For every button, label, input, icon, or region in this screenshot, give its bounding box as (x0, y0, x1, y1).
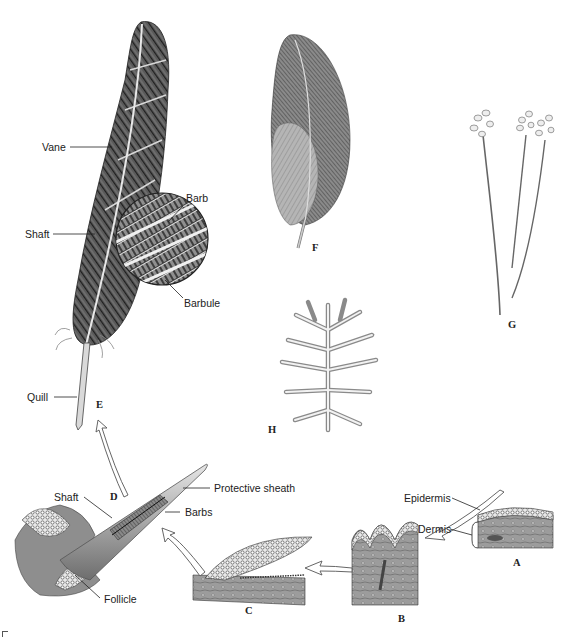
stage-b-papilla (352, 522, 418, 605)
stage-label-c: C (245, 606, 253, 617)
down-feather-h-highlight (282, 305, 376, 430)
stage-label-d: D (110, 492, 118, 503)
label-barb: Barb (186, 193, 208, 204)
arrow-b-to-c (305, 561, 352, 575)
stage-label-g: G (508, 320, 516, 331)
label-epidermis: Epidermis (404, 493, 451, 504)
stage-c-bud (193, 537, 312, 605)
stage-d-follicle (15, 464, 208, 596)
stage-label-f: F (312, 243, 318, 254)
filoplumes-g (470, 110, 554, 315)
label-shaft-feather: Shaft (25, 229, 50, 240)
label-dermis: Dermis (418, 524, 451, 535)
stage-label-e: E (96, 400, 103, 411)
label-barbs: Barbs (185, 507, 212, 518)
corner-crop-mark (2, 631, 8, 637)
feather-f (271, 35, 350, 248)
label-quill: Quill (27, 392, 48, 403)
stage-label-a: A (513, 558, 521, 569)
arrow-d-to-e (96, 420, 128, 497)
feather-diagram (0, 0, 573, 637)
label-barbule: Barbule (184, 298, 220, 309)
arrow-c-to-d (162, 528, 205, 576)
label-vane: Vane (42, 142, 66, 153)
label-shaft-sheath: Shaft (54, 492, 79, 503)
stage-label-b: B (398, 614, 405, 625)
label-protective-sheath: Protective sheath (214, 483, 295, 494)
label-follicle: Follicle (104, 594, 137, 605)
stage-label-h: H (268, 425, 276, 436)
stage-a-skin (478, 508, 553, 548)
